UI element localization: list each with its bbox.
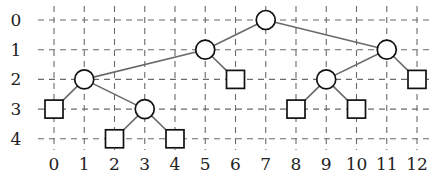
internal-node-circle bbox=[75, 70, 94, 89]
leaf-node-square bbox=[166, 130, 184, 148]
row-label: 2 bbox=[11, 69, 22, 89]
leaf-node-square bbox=[348, 100, 366, 118]
column-label: 12 bbox=[406, 154, 428, 174]
column-label: 1 bbox=[79, 154, 90, 174]
leaf-node-square bbox=[408, 70, 426, 88]
axis-labels: 012340123456789101112 bbox=[11, 10, 428, 174]
column-label: 2 bbox=[109, 154, 120, 174]
column-label: 10 bbox=[346, 154, 368, 174]
column-label: 9 bbox=[321, 154, 332, 174]
internal-node-circle bbox=[317, 70, 336, 89]
internal-node-circle bbox=[196, 40, 215, 59]
leaf-node-square bbox=[287, 100, 305, 118]
column-label: 8 bbox=[291, 154, 302, 174]
internal-node-circle bbox=[377, 40, 396, 59]
leaf-node-square bbox=[227, 70, 245, 88]
row-label: 3 bbox=[11, 99, 22, 119]
column-label: 11 bbox=[376, 154, 398, 174]
column-label: 7 bbox=[260, 154, 271, 174]
column-label: 4 bbox=[170, 154, 181, 174]
column-label: 5 bbox=[200, 154, 211, 174]
tree-edge bbox=[266, 20, 387, 50]
row-label: 4 bbox=[11, 129, 22, 149]
row-label: 0 bbox=[11, 10, 22, 30]
leaf-node-square bbox=[106, 130, 124, 148]
column-label: 3 bbox=[139, 154, 150, 174]
column-label: 0 bbox=[49, 154, 60, 174]
internal-node-circle bbox=[256, 11, 275, 30]
column-label: 6 bbox=[230, 154, 241, 174]
tree-grid-diagram: 012340123456789101112 bbox=[0, 0, 437, 187]
internal-node-circle bbox=[135, 100, 154, 119]
row-label: 1 bbox=[11, 40, 22, 60]
leaf-node-square bbox=[45, 100, 63, 118]
